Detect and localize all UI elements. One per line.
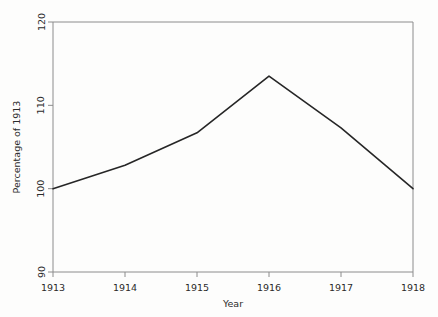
chart-canvas: 120 110 100 90 1913 1914 1915 1916 1917 … [0,0,438,317]
y-tick-label-120: 120 [36,13,47,31]
x-tick-label-1914: 1914 [113,282,137,293]
line-chart: 120 110 100 90 1913 1914 1915 1916 1917 … [0,0,438,317]
x-tick-label-1916: 1916 [257,282,281,293]
y-axis-title: Percentage of 1913 [11,101,22,194]
plot-frame [53,22,413,272]
x-axis-ticks [53,272,413,277]
x-tick-label-1913: 1913 [41,282,65,293]
x-tick-label-1915: 1915 [185,282,209,293]
y-axis-ticks [48,22,53,272]
x-axis-title: Year [222,298,243,309]
y-tick-label-group: 120 110 100 90 [36,13,47,278]
x-tick-label-1917: 1917 [329,282,353,293]
y-tick-label-90: 90 [36,266,47,278]
data-series-line [53,76,413,189]
x-tick-label-group: 1913 1914 1915 1916 1917 1918 [41,282,425,293]
y-tick-label-100: 100 [36,180,47,198]
x-tick-label-1918: 1918 [401,282,425,293]
y-tick-label-110: 110 [36,96,47,114]
